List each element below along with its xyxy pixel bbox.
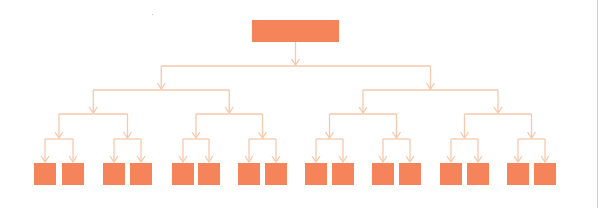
leaf-node (534, 163, 556, 185)
tree-diagram-canvas (0, 0, 600, 208)
leaf-node (332, 163, 354, 185)
leaf-node (103, 163, 125, 185)
leaf-node (305, 163, 327, 185)
root-node (252, 20, 339, 42)
leaf-node (238, 163, 260, 185)
leaf-node (34, 163, 56, 185)
leaf-node (507, 163, 529, 185)
scan-speck (152, 14, 153, 15)
leaf-node (467, 163, 489, 185)
leaf-node (440, 163, 462, 185)
leaf-node (198, 163, 220, 185)
leaf-node (130, 163, 152, 185)
leaf-node (372, 163, 394, 185)
leaf-node (62, 163, 84, 185)
leaf-node (399, 163, 421, 185)
leaf-node (172, 163, 194, 185)
leaf-node (265, 163, 287, 185)
page-edge-line (597, 0, 598, 208)
